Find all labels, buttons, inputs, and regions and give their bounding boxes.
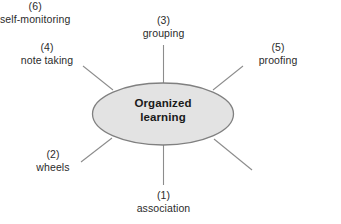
node-note-taking: (4) note taking	[8, 41, 86, 67]
node-association-number: (1)	[127, 189, 200, 202]
connector-line-wheels	[81, 138, 112, 162]
node-self-monitoring-label: self-monitoring	[0, 13, 70, 26]
node-proofing: (5) proofing	[246, 41, 310, 67]
node-note-taking-number: (4)	[8, 41, 86, 54]
center-node-label-line1: Organized	[93, 96, 233, 110]
connector-line-self-monitoring	[214, 139, 252, 170]
node-grouping-label: grouping	[133, 27, 194, 40]
node-self-monitoring-number: (6)	[0, 0, 70, 13]
diagram-canvas: Organized learning (3) grouping (4) note…	[0, 0, 341, 224]
node-proofing-label: proofing	[246, 54, 310, 67]
connector-line-note-taking	[83, 66, 113, 90]
node-grouping: (3) grouping	[133, 14, 194, 40]
node-wheels-number: (2)	[26, 148, 80, 161]
node-grouping-number: (3)	[133, 14, 194, 27]
node-proofing-number: (5)	[246, 41, 310, 54]
node-wheels: (2) wheels	[26, 148, 80, 174]
center-node-label: Organized learning	[93, 96, 233, 124]
center-node-label-line2: learning	[93, 110, 233, 124]
node-association: (1) association	[127, 189, 200, 215]
node-note-taking-label: note taking	[8, 54, 86, 67]
node-association-label: association	[127, 202, 200, 215]
node-self-monitoring: (6) self-monitoring	[0, 0, 70, 26]
node-wheels-label: wheels	[26, 161, 80, 174]
connector-line-proofing	[213, 66, 243, 90]
